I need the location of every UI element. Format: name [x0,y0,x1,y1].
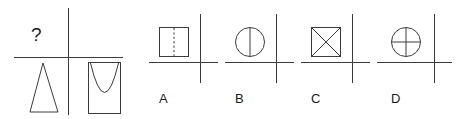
option-c[interactable]: C [300,0,376,119]
option-d-label: D [391,92,401,105]
prompt-panel-graphic [0,0,148,119]
option-d[interactable]: D [376,0,466,119]
option-a-label: A [159,92,168,105]
option-a[interactable]: A [148,0,224,119]
option-d-graphic[interactable] [376,0,466,119]
prompt-panel: ? [0,0,148,119]
prompt-parabola-shape [91,63,119,93]
prompt-rectangle-shape [89,63,121,114]
option-c-label: C [311,92,321,105]
visual-analogy-puzzle: ? A B [0,0,466,119]
prompt-triangle-shape [30,63,58,112]
option-b[interactable]: B [224,0,300,119]
option-b-label: B [235,92,244,105]
question-mark: ? [31,25,42,44]
